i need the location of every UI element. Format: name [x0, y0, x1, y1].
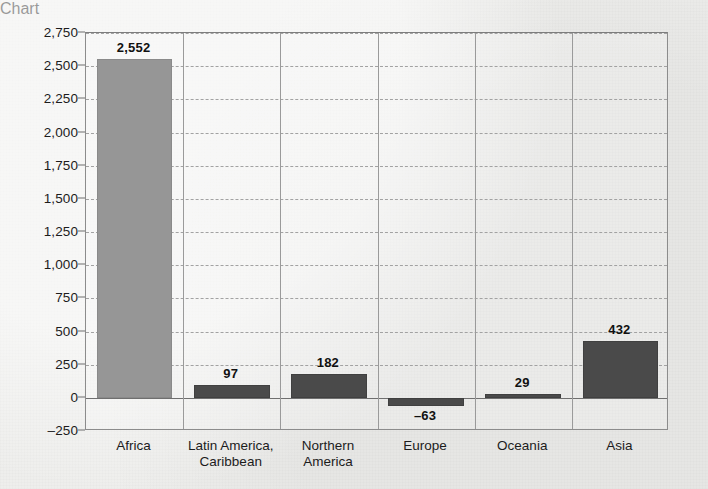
gridline	[86, 99, 667, 100]
bar-value-label: 182	[317, 355, 339, 370]
y-axis-tick-label: 1,500	[44, 190, 78, 205]
y-axis-tick-label: –250	[48, 423, 78, 438]
y-axis-tick-label: 500	[55, 323, 78, 338]
bar	[583, 341, 659, 398]
y-axis-tick-mark	[78, 430, 85, 431]
gridline	[86, 365, 667, 366]
y-axis-tick-mark	[78, 396, 85, 397]
x-axis-label-line: Northern	[302, 438, 355, 454]
x-axis-category-label: Asia	[606, 438, 632, 454]
gridline	[86, 332, 667, 333]
x-axis-category-label: Europe	[403, 438, 447, 454]
gridline	[86, 66, 667, 67]
gridline	[86, 133, 667, 134]
y-axis-tick-label: 2,750	[44, 25, 78, 40]
y-axis-tick-label: 2,000	[44, 124, 78, 139]
y-axis-tick-label: 750	[55, 290, 78, 305]
bar	[291, 374, 367, 398]
y-axis-tick-label: 2,500	[44, 58, 78, 73]
zero-line	[86, 398, 667, 399]
y-axis-tick-label: 2,250	[44, 91, 78, 106]
bar	[485, 394, 561, 398]
x-axis-label-line: Europe	[403, 438, 447, 454]
bar-value-label: 2,552	[117, 40, 151, 55]
gridline	[86, 166, 667, 167]
x-axis-label-line: Oceania	[497, 438, 547, 454]
x-axis-label-line: Asia	[606, 438, 632, 454]
gridline	[86, 265, 667, 266]
y-axis-tick-mark	[78, 65, 85, 66]
y-axis-tick-mark	[78, 98, 85, 99]
category-separator	[475, 33, 476, 429]
y-axis-tick-label: 1,250	[44, 224, 78, 239]
bar-chart-figure: 2,7502,5002,2502,0001,7501,5001,2501,000…	[0, 0, 708, 489]
plot-area	[85, 32, 668, 430]
y-axis-tick-label: 1,000	[44, 257, 78, 272]
x-axis-label-line: Caribbean	[188, 454, 274, 470]
bar-value-label: 29	[515, 375, 530, 390]
bar	[388, 398, 464, 406]
category-separator	[572, 33, 573, 429]
y-axis-tick-mark	[78, 32, 85, 33]
x-axis-label-line: Africa	[116, 438, 151, 454]
bar	[97, 59, 173, 398]
y-axis-tick-mark	[78, 297, 85, 298]
gridline	[86, 232, 667, 233]
x-axis-category-label: NorthernAmerica	[302, 438, 355, 469]
y-axis-tick-mark	[78, 197, 85, 198]
y-axis-tick-label: 1,750	[44, 157, 78, 172]
bar	[194, 385, 270, 398]
gridline	[86, 298, 667, 299]
y-axis-label-group: 2,7502,5002,2502,0001,7501,5001,2501,000…	[0, 32, 78, 430]
x-axis-label-line: America	[302, 454, 355, 470]
bar-value-label: 432	[608, 322, 630, 337]
y-axis-tick-mark	[78, 231, 85, 232]
y-axis-tick-label: 250	[55, 356, 78, 371]
y-axis-tick-mark	[78, 164, 85, 165]
y-axis-tick-mark	[78, 330, 85, 331]
category-separator	[378, 33, 379, 429]
category-separator	[183, 33, 184, 429]
x-axis-category-label: Oceania	[497, 438, 547, 454]
gridline	[86, 33, 667, 34]
y-axis-tick-label: 0	[70, 389, 78, 404]
bar-value-label: 97	[223, 366, 238, 381]
x-axis-category-label: Africa	[116, 438, 151, 454]
bar-value-label: –63	[414, 408, 436, 423]
x-axis-label-line: Latin America,	[188, 438, 274, 454]
gridline	[86, 199, 667, 200]
category-separator	[280, 33, 281, 429]
y-axis-tick-mark	[78, 131, 85, 132]
y-axis-tick-mark	[78, 264, 85, 265]
x-axis-category-label: Latin America,Caribbean	[188, 438, 274, 469]
y-axis-tick-mark	[78, 363, 85, 364]
